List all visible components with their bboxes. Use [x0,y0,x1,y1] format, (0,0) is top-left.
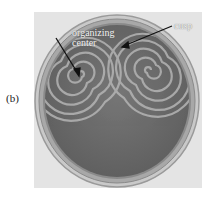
annotation-cusp: cusp [174,21,192,31]
annotation-organizing-center: organizing center [72,28,122,48]
annotation-organizing-line2: center [72,37,96,48]
petri-dish-photo: organizing center cusp [34,12,202,188]
panel-label: (b) [6,92,19,104]
